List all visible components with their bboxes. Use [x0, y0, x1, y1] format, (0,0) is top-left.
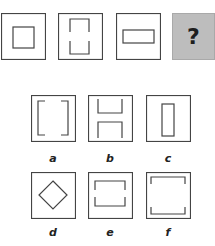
split-large-square-figure: [146, 172, 191, 219]
diamond-figure: [31, 172, 76, 219]
sequence-tile-2: [58, 13, 103, 60]
split-tall-rect-figure: [58, 13, 103, 60]
sequence-tile-1: [1, 13, 46, 60]
option-label-d: d: [31, 226, 75, 239]
option-label-a: a: [31, 152, 75, 165]
h-shape-figure: [88, 95, 133, 142]
option-a[interactable]: [31, 95, 76, 142]
option-d[interactable]: [31, 172, 76, 219]
option-e[interactable]: [88, 172, 133, 219]
option-b[interactable]: [88, 95, 133, 142]
question-mark-icon: ?: [187, 26, 200, 48]
option-label-c: c: [146, 152, 190, 165]
option-label-f: f: [146, 226, 190, 239]
option-label-b: b: [88, 152, 132, 165]
question-tile: ?: [172, 13, 215, 60]
brackets-figure: [31, 95, 76, 142]
square-in-square-figure: [1, 13, 46, 60]
tall-rect-figure: [146, 95, 191, 142]
option-c[interactable]: [146, 95, 191, 142]
option-f[interactable]: [146, 172, 191, 219]
split-wide-rect-figure: [88, 172, 133, 219]
wide-rect-figure: [116, 13, 161, 60]
option-label-e: e: [88, 226, 132, 239]
sequence-tile-3: [116, 13, 161, 60]
